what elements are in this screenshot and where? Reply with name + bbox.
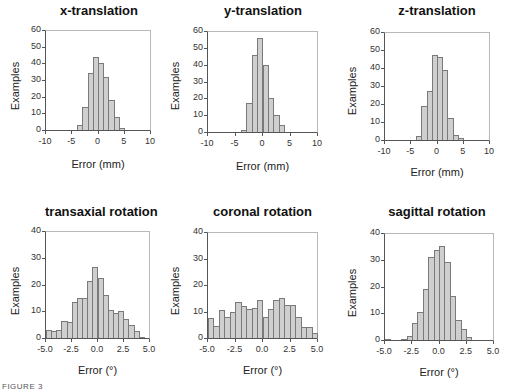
y-tick-mark	[381, 287, 384, 288]
y-tick-mark	[42, 231, 45, 232]
y-tick-label: 10	[183, 109, 203, 119]
histogram-bar	[385, 339, 391, 340]
y-tick-label: 0	[360, 134, 380, 144]
chart-title: coronal rotation	[207, 204, 318, 219]
y-tick-mark	[381, 68, 384, 69]
y-tick-label: 10	[21, 305, 41, 315]
x-tick-mark	[98, 131, 99, 134]
plot-area	[45, 231, 150, 339]
x-tick-mark	[97, 339, 98, 342]
x-tick-mark	[410, 141, 411, 144]
x-tick-mark	[466, 341, 467, 344]
y-tick-label: 30	[183, 76, 203, 86]
chart-title: sagittal rotation	[384, 204, 490, 219]
y-tick-label: 30	[183, 253, 203, 263]
x-tick-label: 10	[474, 146, 504, 156]
x-tick-mark	[439, 341, 440, 344]
x-tick-mark	[411, 341, 412, 344]
y-tick-mark	[204, 115, 207, 116]
y-tick-label: 60	[360, 26, 380, 36]
y-tick-mark	[204, 65, 207, 66]
y-tick-label: 20	[21, 279, 41, 289]
y-tick-label: 0	[21, 124, 41, 134]
x-tick-mark	[493, 341, 494, 344]
y-tick-label: 0	[183, 126, 203, 136]
x-tick-label: 5.0	[478, 346, 508, 356]
y-tick-label: 20	[21, 91, 41, 101]
x-tick-label: 0.0	[424, 346, 454, 356]
y-tick-mark	[381, 86, 384, 87]
x-tick-mark	[71, 131, 72, 134]
y-tick-mark	[381, 50, 384, 51]
y-tick-label: 20	[183, 92, 203, 102]
x-tick-label: 2.5	[275, 344, 305, 354]
x-tick-mark	[45, 131, 46, 134]
y-axis-label: Examples	[346, 253, 358, 333]
y-tick-label: 40	[183, 59, 203, 69]
x-tick-mark	[317, 339, 318, 342]
x-axis-label: Error (mm)	[207, 160, 318, 172]
y-axis-label: Examples	[9, 46, 21, 126]
x-tick-label: -5.0	[369, 346, 399, 356]
x-tick-mark	[290, 339, 291, 342]
y-tick-label: 10	[183, 306, 203, 316]
y-tick-mark	[381, 32, 384, 33]
y-tick-mark	[204, 98, 207, 99]
figure-caption: FIGURE 3	[2, 382, 43, 389]
x-tick-label: -5.0	[192, 344, 222, 354]
x-tick-label: 10	[302, 138, 332, 148]
x-axis-label: Error (°)	[207, 364, 318, 376]
y-tick-mark	[204, 82, 207, 83]
y-tick-label: 0	[21, 332, 41, 342]
histogram-bar	[466, 337, 472, 340]
y-axis-label: Examples	[169, 251, 181, 331]
y-tick-mark	[42, 285, 45, 286]
y-tick-label: 30	[21, 252, 41, 262]
x-tick-mark	[235, 339, 236, 342]
y-tick-label: 0	[360, 334, 380, 344]
plot-area	[384, 233, 494, 341]
x-tick-mark	[384, 141, 385, 144]
chart-title: y-translation	[207, 3, 319, 18]
y-tick-label: 50	[360, 44, 380, 54]
histogram-bar	[312, 333, 318, 338]
histogram-bar	[279, 125, 285, 132]
y-tick-mark	[381, 313, 384, 314]
y-tick-mark	[42, 97, 45, 98]
histogram-bar	[458, 138, 464, 140]
y-tick-mark	[204, 232, 207, 233]
y-tick-label: 20	[360, 281, 380, 291]
y-tick-label: 40	[183, 226, 203, 236]
histogram-bar	[139, 337, 145, 338]
y-tick-mark	[42, 80, 45, 81]
y-tick-label: 60	[21, 24, 41, 34]
x-tick-label: -5	[220, 138, 250, 148]
chart-title: transaxial rotation	[45, 204, 151, 219]
y-axis-label: Examples	[346, 51, 358, 131]
y-axis-label: Examples	[9, 251, 21, 331]
x-axis-label: Error (°)	[384, 366, 494, 378]
x-tick-mark	[317, 133, 318, 136]
y-tick-mark	[381, 104, 384, 105]
x-tick-mark	[290, 133, 291, 136]
x-tick-label: -2.5	[220, 344, 250, 354]
y-tick-label: 40	[21, 57, 41, 67]
y-tick-label: 10	[21, 107, 41, 117]
plot-area	[207, 31, 318, 133]
y-tick-label: 20	[183, 279, 203, 289]
x-tick-mark	[437, 141, 438, 144]
x-tick-mark	[384, 341, 385, 344]
y-tick-label: 10	[360, 116, 380, 126]
y-tick-label: 60	[183, 25, 203, 35]
x-tick-label: 10	[135, 136, 165, 146]
x-axis-label: Error (mm)	[45, 158, 151, 170]
y-tick-mark	[204, 285, 207, 286]
y-tick-mark	[381, 233, 384, 234]
y-tick-mark	[204, 48, 207, 49]
y-tick-mark	[42, 47, 45, 48]
x-tick-label: 5.0	[302, 344, 332, 354]
x-tick-mark	[150, 131, 151, 134]
histogram-bar	[119, 128, 125, 130]
x-tick-mark	[45, 339, 46, 342]
y-tick-mark	[42, 30, 45, 31]
